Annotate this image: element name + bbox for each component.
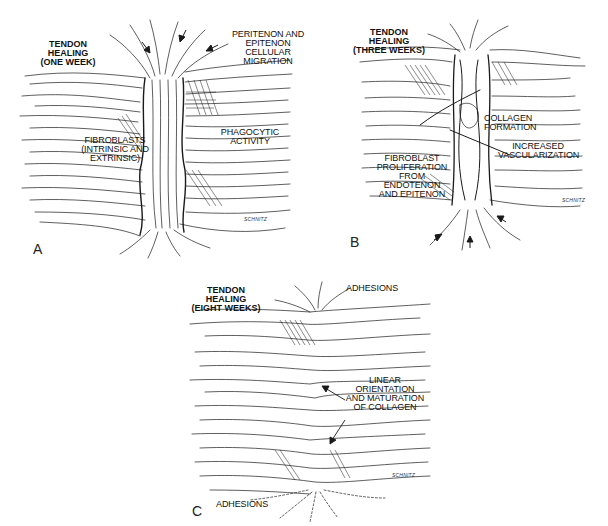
panel-b-label-increased-vascularization: INCREASED VASCULARIZATION (498, 142, 578, 160)
panel-a-letter: A (33, 242, 42, 256)
panel-a-one-week: TENDON HEALING (ONE WEEK) PERITENON AND … (0, 0, 300, 260)
panel-c-letter: C (192, 504, 202, 518)
panel-a-signature: SCHNITZ (244, 216, 267, 222)
panel-c-label-adhesions-bottom: ADHESIONS (216, 500, 276, 509)
panel-a-label-fibroblasts: FIBROBLASTS (INTRINSIC AND EXTRINSIC) (80, 136, 150, 163)
panel-a-label-peritenon-migration: PERITENON AND EPITENON CELLULAR MIGRATIO… (228, 30, 308, 66)
panel-a-label-phagocytic-activity: PHAGOCYTIC ACTIVITY (200, 128, 300, 146)
panel-c-label-adhesions-top: ADHESIONS (346, 284, 406, 293)
panel-b-three-weeks: TENDON HEALING (THREE WEEKS) COLLAGEN FO… (300, 0, 608, 260)
panel-a-title: TENDON HEALING (ONE WEEK) (28, 40, 108, 67)
panel-c-label-linear-orientation: LINEAR ORIENTATION AND MATURATION OF COL… (342, 376, 428, 412)
panel-c-title: TENDON HEALING (EIGHT WEEKS) (188, 286, 264, 313)
panel-c-signature: SCHNITZ (392, 472, 415, 478)
panel-b-label-fibroblast-proliferation: FIBROBLAST PROLIFERATION FROM ENDOTENON … (376, 154, 448, 199)
panel-b-label-collagen-formation: COLLAGEN FORMATION (484, 114, 576, 132)
panel-c-eight-weeks: TENDON HEALING (EIGHT WEEKS) ADHESIONS L… (170, 280, 460, 526)
panel-b-title: TENDON HEALING (THREE WEEKS) (352, 28, 426, 55)
panel-b-letter: B (350, 235, 359, 249)
panel-b-signature: SCHNITZ (562, 197, 585, 203)
